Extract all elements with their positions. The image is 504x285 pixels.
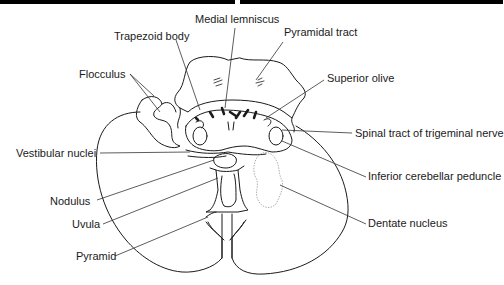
leader-uvula <box>103 178 218 224</box>
label-vestibular-nuclei: Vestibular nuclei <box>16 147 96 160</box>
leader-flocculus-1 <box>130 74 154 96</box>
label-nodulus: Nodulus <box>50 195 90 208</box>
medulla-outline <box>185 110 292 152</box>
cerebellum-right <box>232 126 348 274</box>
label-dentate-nucleus: Dentate nucleus <box>368 217 448 230</box>
label-uvula: Uvula <box>72 218 100 231</box>
leader-vestibular-nuclei <box>100 152 190 153</box>
label-medial-lemniscus: Medial lemniscus <box>195 13 279 26</box>
label-superior-olive: Superior olive <box>327 72 394 85</box>
leader-flocculus-2 <box>130 74 160 112</box>
nodulus-shape <box>214 154 237 169</box>
leader-dentate-nucleus <box>280 185 366 224</box>
cerebellum-left <box>96 112 222 272</box>
label-inferior-cerebellar-peduncle: Inferior cerebellar peduncle <box>368 170 501 183</box>
leader-nodulus <box>97 160 214 200</box>
vermis-fissure <box>206 220 246 258</box>
label-pyramid: Pyramid <box>76 250 116 263</box>
label-flocculus: Flocculus <box>79 68 125 81</box>
uvula-shape <box>206 166 248 212</box>
leader-pyramid <box>115 217 208 256</box>
leader-pyramidal-tract <box>256 42 283 80</box>
leader-trapezoid-body <box>176 40 200 110</box>
label-trapezoid-body: Trapezoid body <box>114 30 189 43</box>
dentate-nucleus-shape <box>254 153 283 208</box>
label-pyramidal-tract: Pyramidal tract <box>284 26 357 39</box>
label-spinal-tract-trigeminal: Spinal tract of trigeminal nerve <box>355 127 504 140</box>
leader-medial-lemniscus <box>225 28 235 108</box>
leader-spinal-tract <box>282 130 352 133</box>
brainstem-outline <box>175 56 305 118</box>
leader-inferior-cerebellar-peduncle <box>282 141 366 177</box>
flocculus-shape <box>136 97 180 148</box>
